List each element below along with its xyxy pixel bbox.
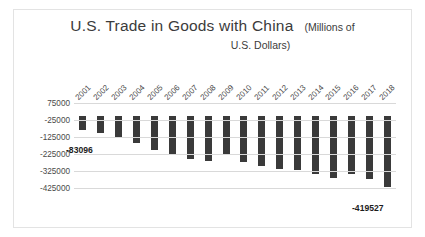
x-axis-tick-label: 2009	[217, 83, 236, 102]
x-axis: 2001200220032004200520062007200820092010…	[74, 62, 404, 102]
gridline	[74, 154, 396, 155]
bar	[276, 116, 283, 169]
x-axis-tick-label: 2008	[199, 83, 218, 102]
data-label-first: -83096	[66, 145, 93, 155]
bar	[79, 116, 86, 130]
bar	[258, 116, 265, 166]
y-axis-tick-label: -125000	[10, 132, 70, 141]
data-label-last: -419527	[352, 203, 384, 213]
y-axis-tick-label: 75000	[10, 99, 70, 108]
gridline	[74, 103, 396, 104]
x-axis-tick-label: 2013	[288, 83, 307, 102]
y-axis-tick-label: -425000	[10, 183, 70, 192]
y-axis-tick-label: -225000	[10, 149, 70, 158]
x-axis-tick-label: 2001	[74, 83, 93, 102]
x-axis-tick-label: 2012	[270, 83, 289, 102]
chart-title-block: U.S. Trade in Goods with China(Millions …	[20, 16, 405, 52]
gridline	[74, 171, 396, 172]
x-axis-tick-label: 2015	[324, 83, 343, 102]
bars-layer	[74, 103, 396, 196]
chart-container: U.S. Trade in Goods with China(Millions …	[0, 0, 425, 237]
x-axis-tick-label: 2003	[109, 83, 128, 102]
bar	[384, 116, 391, 187]
y-axis: 75000-25000-125000-225000-325000-425000	[8, 103, 70, 196]
bar	[223, 116, 230, 154]
plot-area	[74, 103, 396, 196]
bar	[240, 116, 247, 162]
x-axis-tick-label: 2011	[252, 83, 271, 102]
bar	[312, 116, 319, 174]
x-axis-tick-label: 2016	[342, 83, 361, 102]
bar	[115, 116, 122, 137]
x-axis-tick-label: 2007	[181, 83, 200, 102]
y-axis-tick-label: -325000	[10, 166, 70, 175]
y-axis-tick-label: -25000	[10, 115, 70, 124]
x-axis-tick-label: 2010	[235, 83, 254, 102]
chart-title-units: (Millions of	[304, 21, 354, 33]
x-axis-tick-label: 2005	[145, 83, 164, 102]
bar	[169, 116, 176, 156]
bar	[348, 116, 355, 175]
gridline	[74, 137, 396, 138]
bar	[330, 116, 337, 178]
bar	[294, 116, 301, 170]
x-axis-tick-label: 2017	[360, 83, 379, 102]
x-axis-tick-label: 2006	[163, 83, 182, 102]
x-axis-tick-label: 2014	[306, 83, 325, 102]
gridline	[74, 120, 396, 121]
bar	[97, 116, 104, 133]
chart-title-units-line2: U.S. Dollars)	[20, 38, 405, 52]
x-axis-tick-label: 2018	[378, 83, 397, 102]
page-title: U.S. Trade in Goods with China	[70, 17, 293, 34]
chart-title-line: U.S. Trade in Goods with China(Millions …	[20, 16, 405, 37]
x-axis-tick-label: 2004	[127, 83, 146, 102]
x-axis-tick-label: 2002	[91, 83, 110, 102]
gridline	[74, 188, 396, 189]
